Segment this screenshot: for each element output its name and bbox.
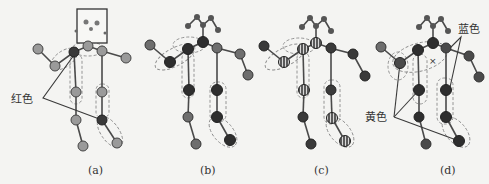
panel-c: (c) — [259, 15, 370, 177]
eye-left-icon — [84, 20, 89, 25]
label-yellow: 黄色 — [365, 110, 387, 124]
eye-right-icon — [95, 21, 100, 26]
caption-b: (b) — [200, 164, 216, 177]
center-marker-icon: × — [429, 56, 437, 66]
label-blue: 蓝色 — [458, 22, 480, 36]
joints — [259, 38, 370, 150]
head-box — [77, 9, 107, 43]
nose-icon — [89, 27, 93, 31]
label-red: 红色 — [11, 92, 33, 106]
caption-a: (a) — [88, 164, 103, 177]
panel-b: (b) — [145, 14, 253, 177]
caption-d: (d) — [440, 164, 456, 177]
group-outlines — [47, 42, 128, 152]
panel-a: 红色 (a) — [11, 9, 131, 177]
joints — [145, 37, 253, 150]
skeleton-figure: 红色 (a) — [0, 0, 489, 184]
panel-d: × 蓝色 黄色 (d) — [365, 15, 484, 177]
caption-c: (c) — [314, 164, 329, 177]
